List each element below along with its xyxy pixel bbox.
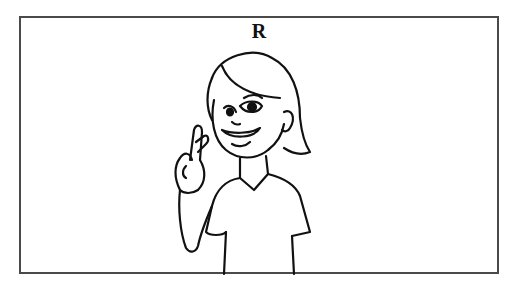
girl-signing-illustration bbox=[0, 0, 517, 298]
